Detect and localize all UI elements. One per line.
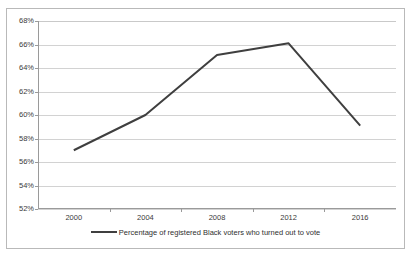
y-axis-tick-label: 56% — [19, 158, 34, 166]
chart-frame: 52%54%56%58%60%62%64%66%68% 200020042008… — [6, 8, 405, 249]
y-axis-tick-label: 62% — [19, 88, 34, 96]
y-axis-tick-label: 60% — [19, 111, 34, 119]
x-axis-tick-label: 2000 — [65, 214, 82, 222]
legend-line-swatch — [91, 231, 117, 233]
x-axis-tick-mark — [181, 209, 182, 212]
data-series-line — [38, 21, 396, 209]
y-axis-tick-label: 58% — [19, 135, 34, 143]
series-polyline — [74, 43, 360, 150]
y-axis-tick-label: 64% — [19, 64, 34, 72]
y-axis-tick-label: 68% — [19, 17, 34, 25]
y-axis-tick-mark — [35, 209, 38, 210]
legend-label: Percentage of registered Black voters wh… — [119, 229, 320, 237]
y-axis-tick-label: 54% — [19, 182, 34, 190]
gridline — [38, 209, 396, 210]
x-axis-tick-label: 2008 — [209, 214, 226, 222]
plot-area: 52%54%56%58%60%62%64%66%68% 200020042008… — [38, 21, 396, 209]
y-axis-tick-label: 66% — [19, 41, 34, 49]
y-axis-tick-label: 52% — [19, 205, 34, 213]
chart-legend: Percentage of registered Black voters wh… — [7, 229, 404, 237]
x-axis-tick-label: 2016 — [352, 214, 369, 222]
x-axis-tick-label: 2012 — [280, 214, 297, 222]
x-axis-tick-mark — [324, 209, 325, 212]
x-axis-tick-label: 2004 — [137, 214, 154, 222]
x-axis-tick-mark — [253, 209, 254, 212]
x-axis-tick-mark — [110, 209, 111, 212]
